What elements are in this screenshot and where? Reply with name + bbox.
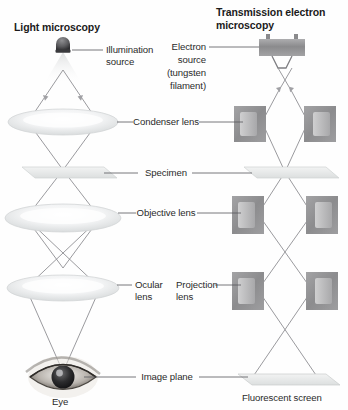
specimen-label: Specimen [145,167,187,178]
light-cone [44,52,82,84]
specimen-slide [22,167,117,178]
diagram-canvas: Light microscopy Transmission electron m… [0,0,348,410]
objective-lens [232,196,338,234]
image-plane-label: Image plane [141,371,193,382]
electron-source-label-line1: Electron [172,41,206,52]
electron-source-label-line4: filament) [170,80,206,91]
projection-lens-label-line2: lens [176,291,194,302]
electron-source [259,34,305,68]
projection-lens-label-line1: Projection [176,279,218,290]
objective-lens [5,204,121,232]
fluorescent-screen-label: Fluorescent screen [242,392,322,403]
projection-lens [232,272,338,310]
illumination-source [56,37,71,53]
ocular-lens-label-line1: Ocular [135,279,164,290]
electron-source-label-line3: (tungsten [167,67,206,78]
tem-column: Fluorescent screen [232,34,340,403]
title-tem-line2: microscopy [216,19,274,31]
electron-source-label-line2: source [178,54,206,65]
condenser-lens [8,109,118,135]
specimen-stage [244,167,339,178]
ocular-lens-label-line2: lens [135,291,153,302]
microscopy-comparison-diagram: Light microscopy Transmission electron m… [0,0,348,410]
title-tem-line1: Transmission electron [216,6,325,18]
ocular-lens [7,275,119,301]
objective-lens-label: Objective lens [137,207,196,218]
title-light-microscopy: Light microscopy [14,21,100,33]
light-microscope-column: Eye [5,37,121,407]
fluorescent-screen [238,374,340,385]
illumination-source-label-line2: source [106,56,134,67]
condenser-lens-label: Condenser lens [133,116,199,127]
condenser-lens [234,106,336,142]
illumination-source-label-line1: Illumination [106,44,153,55]
eye-label: Eye [52,396,68,407]
ray-arrowheads-left [43,95,83,101]
